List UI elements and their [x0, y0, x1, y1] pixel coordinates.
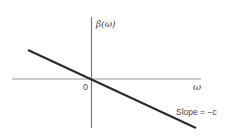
y-axis-label: β(ω)	[95, 19, 116, 29]
x-axis-label: ω	[193, 81, 201, 92]
origin-label: 0	[83, 82, 88, 92]
diagram-canvas: β(ω) ω 0 Slope = −c	[0, 0, 239, 136]
dispersion-line	[28, 50, 196, 128]
slope-annotation: Slope = −c	[176, 107, 217, 117]
